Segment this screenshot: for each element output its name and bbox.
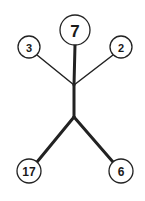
neck-edge bbox=[74, 45, 75, 85]
right-leg-edge bbox=[74, 117, 113, 162]
right-foot-label: 6 bbox=[118, 165, 125, 179]
stick-figure-diagram: 7 3 2 17 6 bbox=[0, 0, 145, 201]
right-hand-node: 2 bbox=[110, 36, 132, 58]
right-hand-label: 2 bbox=[118, 42, 124, 54]
left-foot-node: 17 bbox=[17, 159, 41, 183]
left-hand-node: 3 bbox=[18, 36, 40, 58]
left-arm-edge bbox=[37, 55, 74, 85]
right-arm-edge bbox=[74, 55, 113, 85]
left-hand-label: 3 bbox=[26, 42, 32, 54]
left-foot-label: 17 bbox=[22, 165, 36, 179]
head-node: 7 bbox=[60, 15, 90, 45]
right-foot-node: 6 bbox=[109, 159, 133, 183]
head-label: 7 bbox=[70, 22, 79, 41]
left-leg-edge bbox=[37, 117, 74, 162]
